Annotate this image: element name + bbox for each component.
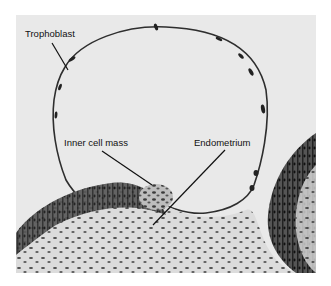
label-endometrium: Endometrium [194,137,251,148]
inner-cell-mass [139,184,173,210]
label-inner-cell-mass: Inner cell mass [64,137,128,148]
label-trophoblast: Trophoblast [25,28,75,39]
micrograph-illustration [16,15,316,273]
micrograph-figure: Trophoblast Inner cell mass Endometrium [16,15,316,273]
